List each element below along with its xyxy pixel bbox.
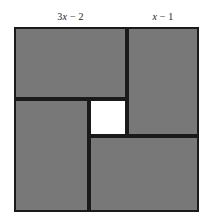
shaded-rectangle-right [127,27,199,136]
shaded-rectangle-top [14,27,127,99]
pinwheel-square-figure: 3x − 2 x − 1 [0,0,213,224]
shaded-rectangle-bottom [89,136,199,212]
outer-square [14,27,199,212]
dimension-label-right: x − 1 [127,11,199,22]
dimension-label-left: 3x − 2 [14,11,127,22]
center-white-square [89,99,127,136]
shaded-rectangle-left [14,99,89,212]
